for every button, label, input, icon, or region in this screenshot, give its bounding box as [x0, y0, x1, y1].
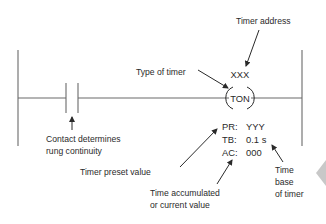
- arrow-timebase: [272, 145, 283, 162]
- callout-timer-address: Timer address: [236, 16, 291, 26]
- preset-label: PR:: [222, 121, 238, 132]
- ladder-diagram: TON XXX PR: YYY TB: 0.1 s AC: 000 Timer …: [0, 0, 326, 224]
- arrow-preset: [180, 129, 217, 167]
- timer-parameters: PR: YYY TB: 0.1 s AC: 000: [222, 121, 267, 158]
- arrow-type-of-timer: [198, 70, 228, 88]
- page-next-arrow-icon[interactable]: [316, 160, 326, 186]
- arrow-accumulated: [217, 160, 232, 184]
- callout-timebase-line2: base: [275, 177, 294, 187]
- timer-output-symbol: TON: [226, 87, 254, 109]
- callout-accumulated-line2: or current value: [150, 200, 210, 210]
- callout-contact-line1: Contact determines: [46, 134, 121, 144]
- timer-address-text: XXX: [231, 69, 251, 80]
- arrow-timer-address: [246, 30, 259, 66]
- timer-type-text: TON: [230, 93, 250, 104]
- timebase-value: 0.1 s: [246, 134, 267, 145]
- callout-timebase-line1: Time: [275, 165, 294, 175]
- preset-value: YYY: [246, 121, 266, 132]
- contact-symbol: [66, 83, 78, 113]
- accumulated-label: AC:: [222, 147, 238, 158]
- callout-contact-line2: rung continuity: [46, 146, 103, 156]
- callout-accumulated-line1: Time accumulated: [150, 188, 220, 198]
- timebase-label: TB:: [222, 134, 237, 145]
- callout-preset: Timer preset value: [80, 167, 151, 177]
- callout-type-of-timer: Type of timer: [136, 67, 186, 77]
- accumulated-value: 000: [246, 147, 262, 158]
- callout-timebase-line3: of timer: [275, 189, 304, 199]
